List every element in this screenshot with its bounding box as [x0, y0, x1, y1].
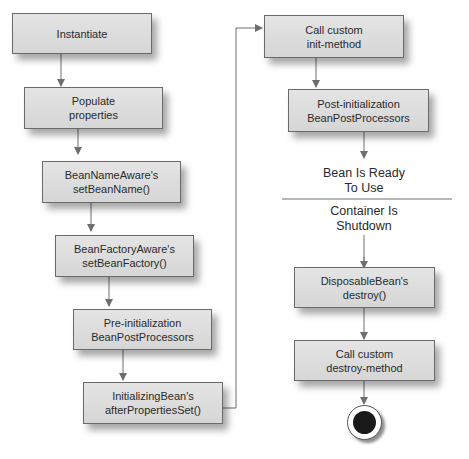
step-label: Post-initialization BeanPostProcessors [307, 97, 410, 125]
end-node [347, 405, 382, 440]
state-ready: Bean Is Ready To Use [304, 166, 424, 196]
step-label: BeanNameAware's setBeanName() [65, 168, 159, 196]
step-label: Call custom init-method [305, 23, 362, 51]
step-pre-initialization: Pre-initialization BeanPostProcessors [73, 309, 212, 350]
step-bean-name-aware: BeanNameAware's setBeanName() [42, 161, 181, 203]
step-instantiate: Instantiate [12, 13, 152, 54]
step-label: InitializingBean's afterPropertiesSet() [105, 389, 201, 417]
step-label: Populate properties [69, 94, 118, 122]
step-populate-properties: Populate properties [24, 87, 163, 129]
step-label: Call custom destroy-method [326, 347, 402, 375]
state-shutdown: Container Is Shutdown [304, 204, 424, 234]
step-bean-factory-aware: BeanFactoryAware's setBeanFactory() [55, 235, 194, 277]
step-init-method: Call custom init-method [264, 15, 404, 58]
step-disposable-bean: DisposableBean's destroy() [294, 267, 435, 308]
bean-lifecycle-diagram: Instantiate Populate properties BeanName… [0, 0, 469, 459]
step-label: Instantiate [57, 27, 108, 41]
step-label: DisposableBean's destroy() [321, 274, 409, 302]
step-post-initialization: Post-initialization BeanPostProcessors [288, 89, 429, 132]
end-node-dot [353, 411, 376, 434]
step-initializing-bean: InitializingBean's afterPropertiesSet() [83, 382, 223, 424]
step-label: BeanFactoryAware's setBeanFactory() [74, 242, 175, 270]
step-label: Pre-initialization BeanPostProcessors [91, 316, 194, 344]
step-destroy-method: Call custom destroy-method [294, 340, 435, 381]
